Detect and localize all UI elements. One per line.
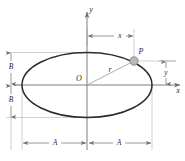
figure-canvas: y x O P r x y B B A A <box>0 0 185 161</box>
a-left-label: A <box>52 138 58 147</box>
point-p-marker[interactable] <box>130 57 138 65</box>
y-axis-label: y <box>88 5 93 14</box>
x-axis-label: x <box>175 86 180 95</box>
ellipse-figure: y x O P r x y B B A A <box>0 0 185 161</box>
x-dimension-label: x <box>117 31 122 40</box>
point-p-label: P <box>138 47 144 56</box>
coordinate-axes <box>14 12 180 150</box>
b-lower-label: B <box>9 95 14 104</box>
b-upper-label: B <box>9 62 14 71</box>
extension-lines <box>6 29 176 150</box>
y-dimension-label: y <box>163 68 168 77</box>
a-right-label: A <box>116 138 122 147</box>
origin-label: O <box>76 74 82 83</box>
